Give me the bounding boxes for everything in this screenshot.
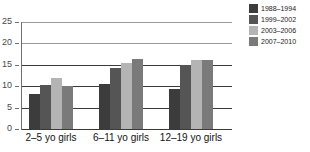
bar (62, 86, 73, 129)
bar (110, 68, 121, 129)
gridline-0 (22, 129, 232, 130)
legend-item[interactable]: 2003–2006 (249, 26, 310, 36)
legend-item[interactable]: 1988–1994 (249, 4, 310, 14)
y-tick-mark-0 (15, 129, 19, 130)
legend-item-label: 2003–2006 (261, 26, 296, 35)
y-axis-labels: 0510152025 (0, 22, 19, 129)
y-tick-label-5: 5 (0, 103, 12, 112)
y-tick-mark-25 (15, 22, 19, 23)
x-axis-category-label: 6–11 yo girls (81, 131, 161, 144)
bar-chart: 0510152025 2–5 yo girls6–11 yo girls12–1… (0, 0, 310, 152)
legend: 1988–19941999–20022003–20062007–2010 (249, 4, 310, 50)
bar (29, 94, 40, 129)
plot-area: 0510152025 2–5 yo girls6–11 yo girls12–1… (0, 0, 240, 152)
legend-swatch-icon (249, 15, 258, 24)
bar (99, 84, 110, 129)
bar-group (99, 22, 143, 129)
bar-group (169, 22, 213, 129)
y-tick-label-25: 25 (0, 17, 12, 26)
legend-item[interactable]: 2007–2010 (249, 37, 310, 47)
bar (180, 65, 191, 129)
y-tick-label-20: 20 (0, 38, 12, 47)
bar (121, 63, 132, 129)
legend-item-label: 1999–2002 (261, 15, 296, 24)
x-axis-category-label: 12–19 yo girls (151, 131, 231, 144)
legend-swatch-icon (249, 4, 258, 13)
bar-group (29, 22, 73, 129)
bar (51, 78, 62, 129)
y-tick-mark-10 (15, 86, 19, 87)
x-axis-labels: 2–5 yo girls6–11 yo girls12–19 yo girls (22, 131, 232, 149)
y-tick-mark-15 (15, 65, 19, 66)
y-tick-label-15: 15 (0, 60, 12, 69)
bar-series-layer (22, 22, 232, 129)
bar (191, 60, 202, 129)
legend-swatch-icon (249, 26, 258, 35)
legend-item[interactable]: 1999–2002 (249, 15, 310, 25)
bar (202, 60, 213, 129)
legend-swatch-icon (249, 37, 258, 46)
y-tick-mark-20 (15, 43, 19, 44)
x-axis-category-label: 2–5 yo girls (11, 131, 91, 144)
y-tick-mark-5 (15, 108, 19, 109)
y-tick-label-10: 10 (0, 81, 12, 90)
bar (132, 59, 143, 129)
legend-item-label: 2007–2010 (261, 37, 296, 46)
bar (169, 89, 180, 129)
bar (40, 85, 51, 130)
legend-item-label: 1988–1994 (261, 4, 296, 13)
